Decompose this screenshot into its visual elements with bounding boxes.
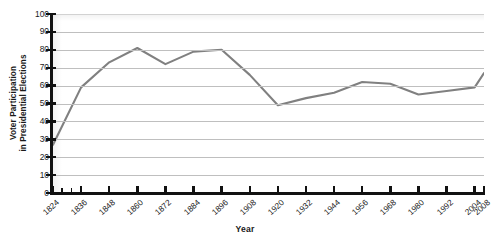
x-tick-mark-1872	[164, 186, 166, 195]
gridline-y-40	[53, 121, 484, 122]
x-tick-label-1992: 1992	[429, 198, 454, 222]
y-axis-title-line-1: Voter Participation	[9, 66, 20, 140]
y-tick-mark-20	[46, 156, 56, 158]
x-tick-label-1884: 1884	[176, 198, 201, 222]
x-tick-label-1980: 1980	[401, 198, 426, 222]
gridline-y-80	[53, 50, 484, 51]
x-tick-label-1896: 1896	[204, 198, 229, 222]
x-minor-tick-mark-1828	[61, 188, 63, 194]
x-tick-label-1920: 1920	[261, 198, 286, 222]
x-minor-tick-mark-1832	[71, 188, 73, 194]
y-tick-mark-90	[46, 31, 56, 33]
gridline-y-10	[53, 175, 484, 176]
x-tick-mark-1932	[305, 186, 307, 195]
x-tick-label-1872: 1872	[148, 198, 173, 222]
gridline-y-90	[53, 32, 484, 33]
x-tick-mark-2008	[483, 186, 485, 195]
y-tick-mark-100	[46, 13, 56, 15]
gridline-y-30	[53, 139, 484, 140]
x-tick-label-1944: 1944	[317, 198, 342, 222]
y-tick-mark-80	[46, 49, 56, 51]
y-tick-mark-50	[46, 102, 56, 104]
gridline-y-100	[53, 14, 484, 15]
x-tick-label-1932: 1932	[289, 198, 314, 222]
y-tick-mark-30	[46, 138, 56, 140]
x-tick-mark-1824	[52, 186, 54, 195]
x-axis-title: Year	[0, 224, 490, 234]
x-tick-label-1836: 1836	[64, 198, 89, 222]
gridline-y-20	[53, 157, 484, 158]
y-tick-mark-40	[46, 120, 56, 122]
plot-area	[53, 14, 484, 193]
y-tick-mark-60	[46, 84, 56, 86]
x-tick-mark-1836	[80, 186, 82, 195]
x-tick-label-1860: 1860	[120, 198, 145, 222]
x-tick-mark-1920	[277, 186, 279, 195]
x-tick-mark-1992	[445, 186, 447, 195]
x-tick-mark-1968	[389, 186, 391, 195]
data-series-line	[53, 48, 484, 145]
x-tick-label-1848: 1848	[92, 198, 117, 222]
x-tick-mark-1944	[333, 186, 335, 195]
y-tick-mark-10	[46, 174, 56, 176]
x-tick-mark-1908	[249, 186, 251, 195]
gridline-y-70	[53, 68, 484, 69]
x-tick-mark-1980	[417, 186, 419, 195]
x-tick-mark-1896	[220, 186, 222, 195]
x-tick-label-1908: 1908	[232, 198, 257, 222]
x-tick-mark-2004	[473, 186, 475, 195]
x-tick-mark-1860	[136, 186, 138, 195]
y-tick-mark-70	[46, 67, 56, 69]
x-tick-label-1968: 1968	[373, 198, 398, 222]
gridline-y-50	[53, 104, 484, 105]
x-tick-mark-1884	[192, 186, 194, 195]
x-tick-label-1956: 1956	[345, 198, 370, 222]
x-tick-label-1824: 1824	[36, 198, 61, 222]
x-tick-mark-1848	[108, 186, 110, 195]
x-tick-mark-1956	[361, 186, 363, 195]
gridline-y-60	[53, 86, 484, 87]
